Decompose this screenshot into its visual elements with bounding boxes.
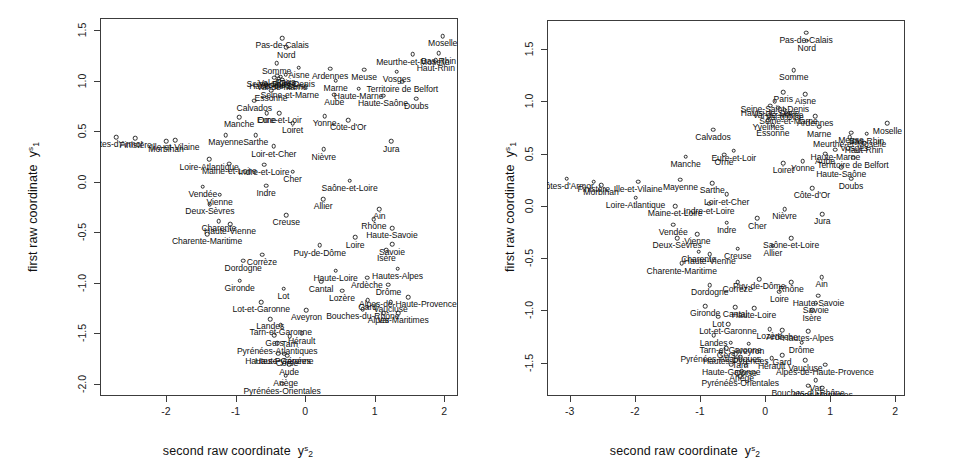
x-tick-mark [895,396,896,402]
data-point-label: Mayenne [208,138,243,147]
x-tick-mark [305,396,306,402]
y-tick-label: -1.5 [523,353,535,373]
data-point-label: Vendée [659,228,688,237]
x-axis-title-right: second raw coordinate ys2 [610,444,760,459]
data-point-label: Rhône [779,285,804,294]
data-point-label: Finistère [119,141,152,150]
y-tick-mark [541,49,547,50]
scatter-panel-right: Pas-de-CalaisNordSommeParisAisneSeine-Sa… [477,0,954,476]
data-point-label: Pyrénées-Orientales [243,387,320,396]
y-tick-label: 0.5 [76,121,88,141]
data-point-label: Dordogne [691,288,728,297]
data-point-label: Manche [671,160,701,169]
x-tick-mark [444,396,445,402]
y-tick-label: -0.5 [523,248,535,268]
data-point-label: Doubs [839,182,864,191]
x-tick-label: 0 [302,405,308,417]
data-point-label: Meuse [351,73,377,82]
data-point-label: Pyrénées-Orientales [702,379,779,388]
data-point-label: Haute-Savoie [366,231,417,240]
y-tick-label: 0.0 [76,172,88,192]
y-tick-mark [94,283,100,284]
x-tick-mark [166,396,167,402]
data-point-label: Charente-Maritime [647,267,717,276]
data-point-label: Haute-Saône [816,170,866,179]
data-point-label: Ille-et-Vilaine [614,185,663,194]
data-point-label: Allier [763,249,782,258]
data-point-label: Mayenne [663,183,698,192]
y-tick-label: 0.5 [523,144,535,164]
scatter-panel-left: Pas-de-CalaisNordMoselleMeurthe-et-Mosel… [0,0,477,476]
data-point-label: Ardennes [312,72,348,81]
figure-canvas: Pas-de-CalaisNordMoselleMeurthe-et-Mosel… [0,0,954,476]
data-point-label: Jura [383,145,400,154]
data-point-label: Haute-Vienne [204,227,256,236]
data-point-label: Isère [377,254,396,263]
y-tick-mark [94,232,100,233]
y-axis-title-left: first raw coordinate ys1 [26,142,41,272]
data-point-label: Sarthe [700,186,725,195]
data-point-label: Lot-et-Garonne [699,327,757,336]
y-tick-label: -2.0 [76,374,88,394]
data-point-label: Marne [807,130,831,139]
data-point-label: Nièvre [772,212,797,221]
y-tick-label: -1.5 [76,323,88,343]
x-tick-label: 2 [441,405,447,417]
data-point-label: Haute-Vienne [684,257,736,266]
y-tick-mark [94,30,100,31]
y-axis-symbol-left: y [26,151,40,157]
y-tick-label: 1.5 [523,39,535,59]
data-point-label: Côte-d'Or [794,191,831,200]
y-tick-mark [541,154,547,155]
x-tick-mark [375,396,376,402]
x-tick-label: 2 [892,405,898,417]
x-axis-sub-left: 2 [308,449,313,459]
data-point-label: Deux-Sèvres [185,207,234,216]
x-axis-title-text-right: second raw coordinate [610,444,738,458]
data-point-label: Lozère [329,294,355,303]
x-tick-mark [236,396,237,402]
data-point-label: Lot [278,292,290,301]
data-point-label: Sarthe [243,138,268,147]
data-point-label: Nièvre [312,153,337,162]
data-point-label: Allier [314,202,333,211]
data-point-label: Doubs [404,102,429,111]
y-tick-label: -1.0 [76,273,88,293]
data-point-label: Aube [324,98,344,107]
y-tick-mark [541,101,547,102]
plot-area-left: Pas-de-CalaisNordMoselleMeurthe-et-Mosel… [100,18,458,396]
data-point-label: Indre [717,226,736,235]
data-point-label: Somme [779,73,808,82]
data-point-label: Maine-et-Loire [648,209,703,218]
y-axis-title-text-right: first raw coordinate [503,164,517,272]
data-point-label: Jura [814,217,831,226]
data-point-label: Loire [770,295,789,304]
y-tick-mark [94,182,100,183]
y-tick-mark [94,81,100,82]
data-point-label: Dordogne [225,264,262,273]
data-point-label: Ille-et-Vilaine [151,143,200,152]
y-tick-label: 1.0 [76,71,88,91]
data-point-label: Loir-et-Cher [251,150,296,159]
data-point-label: Côte-d'Or [330,123,367,132]
data-point-label: Moselle [873,127,902,136]
data-point-label: Calvados [695,133,730,142]
x-axis-sub-right: 2 [755,449,760,459]
data-point-label: Loiret [773,166,794,175]
data-point-label: Essonne [756,129,789,138]
x-tick-label: -1 [695,405,704,417]
y-tick-label: -1.0 [523,300,535,320]
y-tick-label: 1.0 [523,91,535,111]
data-point-label: Gironde [225,284,255,293]
x-tick-label: -1 [231,405,240,417]
x-tick-mark [635,396,636,402]
data-point-label: Cher [748,222,766,231]
data-point-label: Haut-Rhin [417,64,455,73]
y-axis-sup-left: s [26,147,35,151]
data-point-label: Ardennes [797,119,833,128]
data-point-label: Manche [224,120,254,129]
data-point-label: Drôme [789,346,815,355]
x-tick-mark [765,396,766,402]
x-tick-label: -2 [161,405,170,417]
data-point-label: Alpes-de-Haute-Provence [776,368,874,377]
